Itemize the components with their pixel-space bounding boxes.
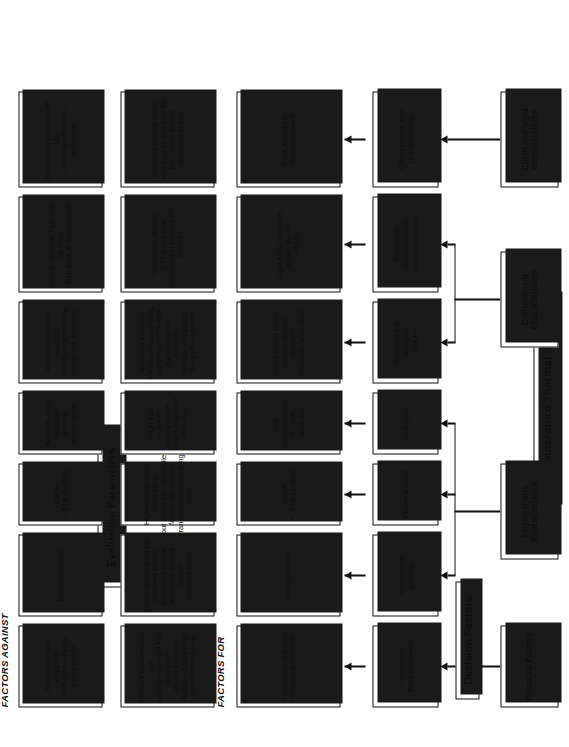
factors-for-3-label: Small < .5 ha (1 acre) xyxy=(280,468,297,520)
category-physical[interactable]: Physical Site Characteristics xyxy=(500,463,558,559)
factors-against-7-label: Expensive, possible off-site contaminati… xyxy=(43,95,77,183)
factors-for-1-label: Excavation required; Presence of VOCs xyxy=(280,631,297,700)
factors-for-4-label: Dry, homogeneous; Uniform particles xyxy=(271,396,305,450)
node-3-label: Plume Extent xyxy=(400,470,409,518)
factors-for-7: Fast, closure is straightforward xyxy=(236,91,340,187)
stem-physical xyxy=(454,510,500,511)
evaluation-parameter-6-label: Gasolines, diesels LTTS requires volatil… xyxy=(150,200,184,288)
node-1-label: Operation Requirements xyxy=(396,641,414,691)
column-header-decision-factors-label: Decision Factors xyxy=(461,596,473,685)
node-7-label: Client needs and requirements xyxy=(396,109,414,170)
factors-for-5-label: Some mixed waste, volatile organic solve… xyxy=(271,305,305,379)
factors-against-6-label: Heavy, viscous, high mol. wt. HCs fuel, … xyxy=(47,201,73,287)
category-contaminant-label: Contaminant Characteristics xyxy=(520,269,539,330)
node-5-label: Sampling & analysis (TCLP) xyxy=(391,321,418,362)
factors-for-3: Small < .5 ha (1 acre) xyxy=(236,463,340,525)
connector-cat-physical-0 xyxy=(447,574,455,575)
flowchart-canvas: Low Temperature Thermal StrippingDecisio… xyxy=(0,0,569,747)
evaluation-parameter-3-label: Higher costs favor small sites but an on… xyxy=(142,454,193,534)
factors-against-2: Heterogeneous xyxy=(18,534,102,616)
evaluation-parameter-1-label: Efficient treatment for low molecular we… xyxy=(137,629,197,703)
evaluation-parameter-2: Large debris must be removed before trea… xyxy=(120,534,214,616)
rotated-canvas-wrapper: Low Temperature Thermal StrippingDecisio… xyxy=(0,0,569,747)
factors-for-5: Some mixed waste, volatile organic solve… xyxy=(236,301,340,383)
connector-cat-client xyxy=(447,138,500,139)
factors-against-4-label: Wet soil, high moisture content, heavy r… xyxy=(43,396,77,450)
node-3[interactable]: Plume Extent xyxy=(372,463,438,525)
arrow-node-4 xyxy=(344,420,351,428)
factors-for-7-label: Fast, closure is straightforward xyxy=(280,113,297,164)
connector-cat-physical-1 xyxy=(447,493,455,494)
factors-against-1-label: Excavation not required; halogenated HCs… xyxy=(43,629,77,703)
node-5[interactable]: Sampling & analysis (TCLP) xyxy=(372,301,438,383)
factors-against-3: Large > .5 ha (1 acre) xyxy=(18,463,102,525)
evaluation-parameter-4-label: High soil moisture, precipitation, runof… xyxy=(146,396,189,450)
evaluation-parameter-5-label: An option available for mixed waste site… xyxy=(137,305,197,379)
factors-against-3-label: Large > .5 ha (1 acre) xyxy=(52,468,69,520)
factors-for-6: Light HCs, gasoline, avgas, jet fuel, VO… xyxy=(236,196,340,292)
evaluation-parameter-7-label: Soils are usually clean and may be used … xyxy=(150,95,184,183)
factors-against-1: Excavation not required; halogenated HCs… xyxy=(18,625,102,707)
category-financial[interactable]: Financial Factors xyxy=(500,625,558,707)
node-1[interactable]: Operation Requirements xyxy=(372,625,438,707)
node-6-label: Chemical characteristics of contaminants xyxy=(391,215,418,272)
factors-against-5: Nonvolatile mixed wastes, metals, radion… xyxy=(18,301,102,383)
factors-for-2: Homogeneous xyxy=(236,534,340,616)
factors-for-1: Excavation required; Presence of VOCs xyxy=(236,625,340,707)
node-7[interactable]: Client needs and requirements xyxy=(372,91,438,187)
evaluation-parameter-2-label: Large debris must be removed before trea… xyxy=(142,538,193,612)
factors-against-6: Heavy, viscous, high mol. wt. HCs fuel, … xyxy=(18,196,102,292)
node-6[interactable]: Chemical characteristics of contaminants xyxy=(372,196,438,292)
stem-contaminant xyxy=(454,298,500,299)
factors-for-4: Dry, homogeneous; Uniform particles xyxy=(236,392,340,454)
category-contaminant[interactable]: Contaminant Characteristics xyxy=(500,251,558,347)
diagram-page: Low Temperature Thermal StrippingDecisio… xyxy=(0,0,569,747)
factors-for-2-label: Homogeneous xyxy=(284,550,293,599)
bus-physical xyxy=(454,423,455,575)
arrow-node-5 xyxy=(344,339,351,347)
node-2-label: Subsurface geology xyxy=(396,555,414,596)
factors-against-4: Wet soil, high moisture content, heavy r… xyxy=(18,392,102,454)
arrow-node-7 xyxy=(344,136,351,144)
evaluation-parameter-4: High soil moisture, precipitation, runof… xyxy=(120,392,214,454)
evaluation-parameter-7: Soils are usually clean and may be used … xyxy=(120,91,214,187)
connector-cat-contaminant-0 xyxy=(447,341,455,342)
arrow-node-1 xyxy=(344,663,351,671)
category-physical-label: Physical Site Characteristics xyxy=(520,481,539,542)
column-header-factors-against: FACTORS AGAINST xyxy=(0,613,9,707)
evaluation-parameter-6: Gasolines, diesels LTTS requires volatil… xyxy=(120,196,214,292)
column-header-evaluation-parameters-label: Evaluation Parameters xyxy=(104,448,116,567)
bus-contaminant xyxy=(454,244,455,342)
node-2[interactable]: Subsurface geology xyxy=(372,534,438,616)
arrow-node-3 xyxy=(344,491,351,499)
factors-for-6-label: Light HCs, gasoline, avgas, jet fuel, VO… xyxy=(275,210,301,278)
arrow-node-6 xyxy=(344,241,351,249)
node-4[interactable]: Soil type xyxy=(372,392,438,454)
node-4-label: Soil type xyxy=(400,407,409,438)
arrow-node-2 xyxy=(344,572,351,580)
category-client-label: Client and legal considerations xyxy=(520,108,539,170)
evaluation-parameter-3: Higher costs favor small sites but an on… xyxy=(120,463,214,525)
category-client[interactable]: Client and legal considerations xyxy=(500,91,558,187)
factors-against-2-label: Heterogeneous xyxy=(56,549,65,601)
connector-cat-contaminant-1 xyxy=(447,243,455,244)
category-financial-label: Financial Factors xyxy=(524,632,533,701)
factors-against-5-label: Nonvolatile mixed wastes, metals, radion… xyxy=(43,305,77,379)
connector-cat-physical-2 xyxy=(447,422,455,423)
evaluation-parameter-5: An option available for mixed waste site… xyxy=(120,301,214,383)
column-header-decision-factors: Decision Factors xyxy=(455,581,479,699)
evaluation-parameter-1: Efficient treatment for low molecular we… xyxy=(120,625,214,707)
factors-against-7: Expensive, possible off-site contaminati… xyxy=(18,91,102,187)
